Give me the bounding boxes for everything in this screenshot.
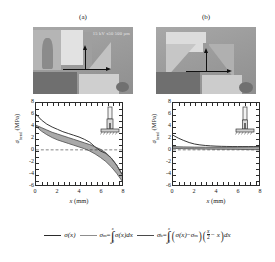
chart-b-ytick-2: 2 [168,134,171,140]
chart-panel-a: σbend (MPa) 8 6 4 2 0 -2 -4 -6 [8,98,130,210]
chart-a-ytick-m4: -4 [29,170,34,176]
chart-b-curve-sigma-m [173,147,259,148]
legend-sigma-b-equals: = [163,231,167,239]
legend-sigma-of-x-expression: σ(x) [64,231,75,239]
legend-sigma-b-close-paren-2: ) [220,232,223,239]
chart-b-x-axis-title: x (mm) [172,197,260,204]
chart-a-left-ticks [36,103,39,185]
chart-b-ytick-4: 4 [168,122,171,128]
micrograph-bright-region-a [61,30,83,65]
chart-b-xtick-2: 2 [193,188,196,195]
chart-b-x-symbol: x [207,197,210,204]
legend-sigma-b-tail: dx [224,231,231,239]
legend-item-sigma-b: σb = x ∫ 0 ( σ(x) − σm ) ( x 2 − x ) [137,227,231,244]
legend-sigma-b-integrand-part1: σ(x) [176,231,187,239]
chart-panel-b: σbend (MPa) 8 6 4 2 0 -2 -4 -6 [145,98,267,210]
chart-b-xtick-0: 0 [171,188,174,195]
chart-b-curve-sigma-x [173,135,259,146]
chart-a-x-symbol: x [70,197,73,204]
chart-b-ytick-m2: -2 [166,158,171,164]
micrograph-blob-b [239,82,253,93]
micrograph-triangle-a [89,42,111,69]
chart-a-xtick-2: 2 [56,188,59,195]
chart-a-ytick-0: 0 [31,146,34,152]
legend-item-sigma-of-x: σ(x) [44,231,75,239]
chart-a-ytick-2: 2 [31,134,34,140]
chart-a-ytick-6: 6 [31,110,34,116]
legend-label-sigma-b: σb = x ∫ 0 ( σ(x) − σm ) ( x 2 − x ) [157,227,231,244]
chart-a-xtick-0: 0 [34,188,37,195]
legend-sigma-b-close-paren: ) [198,232,201,239]
chart-b-inset-specimen-schematic [233,106,257,136]
chart-a-ytick-4: 4 [31,122,34,128]
micrograph-base-plate-a [79,74,119,94]
legend-swatch-sigma-of-x [44,235,61,236]
micrograph-y-arrow-b [206,52,207,71]
micrograph-annotation-a: 15 kV x50 500 µm [93,31,130,36]
legend-sigma-m-integrand: σ(x)dx [115,231,133,239]
micrograph-base-plate-b [202,75,242,94]
legend-swatch-sigma-b [137,235,154,236]
micrograph-dark-corner-b [156,72,200,94]
legend-sigma-m-lower-limit: 0 [112,240,114,244]
chart-a-x-axis-title: x (mm) [35,197,123,204]
legend-sigma-b-lower-limit: 0 [168,240,170,244]
chart-b-xtick-8: 8 [259,188,262,195]
chart-a-ytick-m2: -2 [29,158,34,164]
panel-label-b: (b) [186,13,226,21]
chart-a-inset-specimen-schematic [98,106,122,136]
chart-b-plot-area [172,102,260,186]
chart-b-xtick-4: 4 [215,188,218,195]
micrograph-panel-a: 15 kV x50 500 µm [33,27,133,94]
legend-item-sigma-m: σm = x ∫ 0 σ(x)dx [80,227,133,244]
chart-a-plot-area [35,102,123,186]
chart-b-ytick-m4: -4 [166,170,171,176]
chart-a-xtick-8: 8 [122,188,125,195]
chart-a-ytick-8: 8 [31,98,34,104]
figure-legend: σ(x) σm = x ∫ 0 σ(x)dx σb = [0,222,275,248]
figure-root: (a) (b) 15 kV x50 500 µm σbend (M [0,0,275,262]
legend-swatch-sigma-m [80,235,97,236]
chart-b-ytick-0: 0 [168,146,171,152]
chart-a-xtick-4: 4 [78,188,81,195]
chart-b-left-ticks [173,103,176,185]
legend-sigma-b-integrand-sigma-sub: m [194,233,198,238]
chart-a-x-unit: (mm) [74,197,88,204]
legend-sigma-b-integral: x ∫ 0 [167,227,171,244]
chart-a-xtick-6: 6 [100,188,103,195]
micrograph-dark-corner-a [33,72,77,94]
legend-sigma-b-open-paren-2: ( [203,232,206,239]
legend-label-sigma-m: σm = x ∫ 0 σ(x)dx [100,227,133,244]
micrograph-blob-a [116,82,129,92]
chart-a-bottom-ticks [36,182,122,185]
chart-b-xtick-6: 6 [237,188,240,195]
legend-sigma-b-open-paren: ( [172,232,175,239]
legend-sigma-m-equals: = [107,231,111,239]
chart-b-y-tick-labels: 8 6 4 2 0 -2 -4 -6 [155,98,171,190]
micrograph-y-arrow-a [85,49,86,69]
micrograph-x-arrow-b [186,71,228,72]
chart-b-bottom-ticks [173,182,259,185]
micrograph-triangle-right-b [208,44,234,78]
legend-sigma-b-frac-minus-x: − x [210,231,220,239]
chart-a-y-tick-labels: 8 6 4 2 0 -2 -4 -6 [18,98,34,190]
chart-b-ytick-6: 6 [168,110,171,116]
micrograph-panel-b [156,27,256,94]
chart-b-ytick-8: 8 [168,98,171,104]
micrograph-dark-column-a [42,38,53,69]
legend-sigma-m-integral: x ∫ 0 [111,227,115,244]
chart-b-x-unit: (mm) [211,197,225,204]
panel-label-a: (a) [63,13,103,21]
legend-label-sigma-of-x: σ(x) [64,231,75,239]
